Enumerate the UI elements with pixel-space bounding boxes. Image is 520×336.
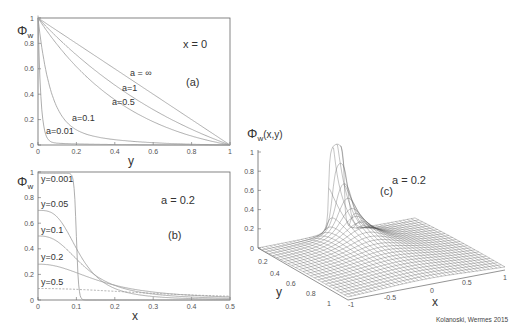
panel-a-ylabel: Φw (17, 23, 33, 40)
mesh-line (329, 188, 419, 280)
curve-label-y-0-5: y=0.5 (41, 277, 63, 287)
z-tick-label: 1 (250, 149, 254, 156)
mesh-line (296, 238, 453, 268)
y-tick-label: 0.2 (24, 116, 34, 123)
curve-label-a-0-01: a=0.01 (46, 126, 74, 136)
mesh-line (337, 144, 427, 279)
mesh-line (303, 242, 460, 272)
c-ytick-3: 0.8 (306, 290, 316, 297)
mesh-line (273, 209, 430, 256)
curve-line (38, 173, 230, 300)
mesh-line (321, 227, 411, 282)
x-tick-label: 0.3 (148, 303, 158, 310)
y-tick-label: 0.8 (24, 194, 34, 201)
panel-b-frame (38, 172, 230, 300)
curve-label-a-inf: a = ∞ (130, 68, 152, 78)
x-tick-label: 0.2 (110, 303, 120, 310)
c-xtick-2: 0 (430, 287, 434, 294)
panel-c-condition: a = 0.2 (392, 174, 426, 186)
curve-label-y-0-1: y=0.1 (41, 225, 63, 235)
x-tick-label: 1 (228, 148, 232, 155)
figure-canvas: 00.20.40.60.81 00.20.40.60.81 Φw y x = 0… (0, 0, 520, 336)
panel-c-z-ticks: 00.20.40.60.81 (244, 149, 261, 252)
x-tick-label: 0 (36, 148, 40, 155)
panel-a-condition: x = 0 (183, 38, 207, 50)
c-xtick-4: 1 (503, 274, 507, 281)
panel-b: 00.20.40.60.81 00.10.20.30.40.5 Φw x a =… (17, 169, 235, 324)
c-ytick-0: 0.2 (258, 258, 268, 265)
curve-label-a-0-5: a=0.5 (112, 97, 135, 107)
x-tick-label: 0 (36, 303, 40, 310)
mesh-line (318, 250, 475, 280)
panel-b-ylabel: Φw (17, 174, 33, 191)
curve-label-a-0-1: a=0.1 (72, 113, 95, 123)
y-tick-label: 0.6 (24, 65, 34, 72)
x-tick-label: 0.4 (110, 148, 120, 155)
curve-line (38, 210, 230, 299)
x-tick-label: 0.1 (72, 303, 82, 310)
c-xtick-3: 0.5 (462, 279, 472, 286)
y-tick-label: 0.6 (24, 220, 34, 227)
c-ytick-4: 1 (327, 300, 331, 307)
c-xtick-1: -0.5 (384, 294, 396, 301)
x-tick-label: 0.4 (187, 303, 197, 310)
y-tick-label: 0.4 (24, 245, 34, 252)
panel-b-condition: a = 0.2 (161, 194, 195, 206)
panel-a-label: (a) (186, 76, 199, 88)
y-tick-label: 0 (30, 142, 34, 149)
z-tick-label: 0.8 (244, 168, 254, 175)
panel-c-surface-mesh (258, 144, 505, 300)
c-xtick-0: -1 (348, 301, 354, 308)
panel-c-ylabel: y (276, 285, 282, 299)
panel-c-zlabel: Φw(x,y) (247, 126, 283, 143)
curve-line (38, 264, 230, 297)
y-tick-label: 0.4 (24, 91, 34, 98)
mesh-line (407, 219, 497, 268)
c-ytick-2: 0.6 (286, 280, 296, 287)
panel-c-base-axes (258, 248, 505, 300)
mesh-line (340, 146, 430, 278)
mesh-line (326, 254, 483, 284)
z-tick-label: 0 (250, 245, 254, 252)
panel-c: 00.20.40.60.81 Φw(x,y) a = 0.2 (c) 0.2 0… (244, 126, 507, 309)
curve-label-y-0-001: y=0.001 (41, 174, 73, 184)
x-tick-label: 0.2 (72, 148, 82, 155)
y-tick-label: 1 (30, 169, 34, 176)
panel-c-xlabel: x (432, 295, 438, 309)
c-ytick-1: 0.4 (270, 270, 280, 277)
x-tick-label: 0.8 (187, 148, 197, 155)
y-tick-label: 0 (30, 297, 34, 304)
curve-label-a-1: a=1 (122, 83, 137, 93)
curve-label-y-0-05: y=0.05 (41, 199, 68, 209)
panel-a: 00.20.40.60.81 00.20.40.60.81 Φw y x = 0… (17, 15, 232, 169)
panel-b-xlabel: x (132, 309, 138, 323)
z-tick-label: 0.4 (244, 206, 254, 213)
mesh-line (380, 225, 470, 273)
y-tick-label: 0.2 (24, 271, 34, 278)
credit-text: Kolanoski, Wermes 2015 (436, 316, 509, 323)
mesh-line (322, 252, 479, 282)
y-tick-label: 1 (30, 15, 34, 22)
mesh-line (403, 220, 493, 269)
panel-a-xlabel: y (128, 154, 134, 168)
panel-b-label: (b) (168, 229, 181, 241)
z-tick-label: 0.6 (244, 187, 254, 194)
panel-c-label: (c) (380, 185, 393, 197)
x-tick-label: 0.6 (148, 148, 158, 155)
y-tick-label: 0.8 (24, 40, 34, 47)
x-tick-label: 0.5 (225, 303, 235, 310)
z-tick-label: 0.2 (244, 225, 254, 232)
panel-b-curves (38, 173, 230, 300)
curve-label-y-0-2: y=0.2 (41, 252, 63, 262)
mesh-line (399, 221, 489, 269)
